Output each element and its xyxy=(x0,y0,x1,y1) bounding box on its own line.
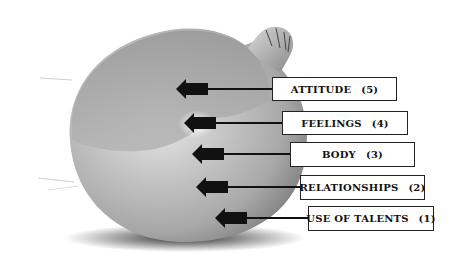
arrow-line xyxy=(200,88,272,90)
arrow-line xyxy=(216,153,290,155)
label-attitude: ATTITUDE(5) xyxy=(272,77,397,101)
arrow-left-icon xyxy=(176,79,208,99)
label-text: FEELINGS xyxy=(301,118,362,129)
arrow-left-icon xyxy=(192,144,224,164)
label-number: (5) xyxy=(361,84,378,95)
label-relationships: RELATIONSHIPS(2) xyxy=(300,175,425,200)
label-number: (4) xyxy=(372,118,389,129)
label-number: (3) xyxy=(366,149,383,160)
arrow-left-icon xyxy=(184,113,216,133)
label-use-of-talents: USE OF TALENTS(1) xyxy=(308,206,434,231)
label-text: RELATIONSHIPS xyxy=(300,182,399,193)
arrow-line xyxy=(208,122,282,124)
label-number: (1) xyxy=(419,213,436,224)
label-number: (2) xyxy=(408,182,425,193)
label-text: BODY xyxy=(322,149,356,160)
arrow-left-icon xyxy=(215,208,247,228)
arrow-line xyxy=(239,217,308,219)
arrow-line xyxy=(220,186,300,188)
label-text: USE OF TALENTS xyxy=(306,213,408,224)
label-text: ATTITUDE xyxy=(291,84,351,95)
onion-diagram: ATTITUDE(5) FEELINGS(4) BODY(3) RELATION… xyxy=(0,0,457,272)
onion-image xyxy=(0,0,457,272)
arrow-left-icon xyxy=(196,177,228,197)
label-feelings: FEELINGS(4) xyxy=(282,111,408,135)
label-body: BODY(3) xyxy=(290,142,415,167)
